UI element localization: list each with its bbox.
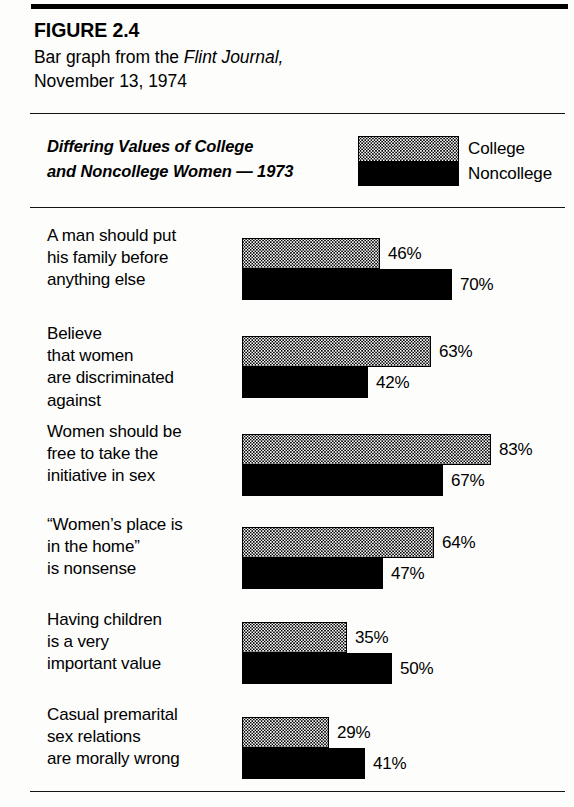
figure-number: FIGURE 2.4 xyxy=(34,18,494,42)
bar-group-label-line: “Women’s place is xyxy=(47,514,235,536)
bar-noncollege: 67% xyxy=(242,465,443,496)
bar-group-label: Having childrenis a veryimportant value xyxy=(47,609,235,676)
bar-group-label: Believethat womenare discriminatedagains… xyxy=(47,323,235,412)
bar-college: 83% xyxy=(242,434,491,465)
bar-value-label: 42% xyxy=(376,373,409,393)
rule-below-legend xyxy=(30,207,565,208)
bar-value-label: 83% xyxy=(499,440,532,460)
bar-college: 64% xyxy=(242,527,434,558)
caption-date: November 13, 1974 xyxy=(34,71,187,91)
bar-pair: 83%67% xyxy=(242,434,491,496)
bar-pair: 35%50% xyxy=(242,622,392,684)
bar-group-label-line: in the home” xyxy=(47,536,235,558)
bar-group-label-line: free to take the xyxy=(47,443,235,465)
bar-value-label: 29% xyxy=(337,723,370,743)
bar-noncollege: 70% xyxy=(242,269,452,300)
bar-group-label-line: initiative in sex xyxy=(47,465,235,487)
legend-label-college: College xyxy=(468,136,552,161)
bar-noncollege: 47% xyxy=(242,558,383,589)
legend-band: Differing Values of College and Noncolle… xyxy=(0,122,574,202)
bar-group-label-line: is a very xyxy=(47,631,235,653)
figure-header: FIGURE 2.4 Bar graph from the Flint Jour… xyxy=(34,18,494,93)
bar-group-label-line: important value xyxy=(47,653,235,675)
bar-group-label-line: Believe xyxy=(47,323,235,345)
bar-chart: A man should puthis family beforeanythin… xyxy=(0,219,574,787)
caption-prefix: Bar graph from the xyxy=(34,47,184,67)
bar-value-label: 35% xyxy=(355,628,388,648)
bar-group-label-line: Having children xyxy=(47,609,235,631)
bar-noncollege: 42% xyxy=(242,367,368,398)
legend-label-noncollege: Noncollege xyxy=(468,161,552,186)
bar-college: 29% xyxy=(242,717,329,748)
top-thick-rule xyxy=(31,4,568,9)
bar-pair: 29%41% xyxy=(242,717,365,779)
chart-title-line1: Differing Values of College xyxy=(47,134,347,159)
bar-group-label: A man should puthis family beforeanythin… xyxy=(47,225,235,292)
bar-group-label-line: Casual premarital xyxy=(47,704,235,726)
bar-group-label: “Women’s place isin the home”is nonsense xyxy=(47,514,235,581)
figure-page: FIGURE 2.4 Bar graph from the Flint Jour… xyxy=(0,0,574,807)
bar-group-label-line: is nonsense xyxy=(47,558,235,580)
bar-group-label-line: his family before xyxy=(47,247,235,269)
bar-value-label: 67% xyxy=(451,471,484,491)
bar-value-label: 46% xyxy=(388,244,421,264)
figure-caption: Bar graph from the Flint Journal, Novemb… xyxy=(34,45,494,93)
bar-group-label-line: are discriminated xyxy=(47,367,235,389)
bar-pair: 63%42% xyxy=(242,336,431,398)
chart-title-line2: and Noncollege Women — 1973 xyxy=(47,159,347,184)
bar-value-label: 50% xyxy=(400,659,433,679)
bar-group-label: Women should befree to take theinitiativ… xyxy=(47,421,235,488)
legend-swatch xyxy=(358,136,459,186)
legend-noncollege-swatch-icon xyxy=(359,161,458,185)
bar-group-label-line: anything else xyxy=(47,269,235,291)
bar-group-label-line: sex relations xyxy=(47,726,235,748)
bar-group-label: Casual premaritalsex relationsare morall… xyxy=(47,704,235,771)
bar-college: 46% xyxy=(242,238,380,269)
bar-noncollege: 41% xyxy=(242,748,365,779)
legend-labels: College Noncollege xyxy=(468,136,552,186)
bar-value-label: 47% xyxy=(391,564,424,584)
bar-group-label-line: A man should put xyxy=(47,225,235,247)
bar-group-label-line: that women xyxy=(47,345,235,367)
bar-value-label: 41% xyxy=(373,754,406,774)
bar-pair: 64%47% xyxy=(242,527,434,589)
bar-pair: 46%70% xyxy=(242,238,452,300)
bar-group-label-line: against xyxy=(47,390,235,412)
bar-group-label-line: Women should be xyxy=(47,421,235,443)
bar-noncollege: 50% xyxy=(242,653,392,684)
rule-below-header xyxy=(30,113,565,114)
bar-college: 35% xyxy=(242,622,347,653)
bar-value-label: 63% xyxy=(439,342,472,362)
chart-title: Differing Values of College and Noncolle… xyxy=(47,134,347,184)
bottom-rule xyxy=(30,791,565,792)
bar-value-label: 70% xyxy=(460,275,493,295)
bar-group-label-line: are morally wrong xyxy=(47,748,235,770)
bar-college: 63% xyxy=(242,336,431,367)
bar-value-label: 64% xyxy=(442,533,475,553)
caption-source: Flint Journal, xyxy=(184,47,283,67)
legend-college-swatch-icon xyxy=(359,137,458,161)
